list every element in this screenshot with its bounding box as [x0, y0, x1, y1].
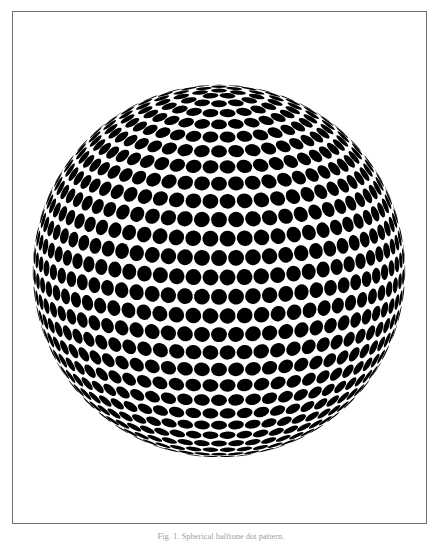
halftone-sphere-icon [1, 1, 442, 544]
figure-frame [12, 11, 427, 524]
page-canvas: Fig. 1. Spherical halftone dot pattern. [0, 0, 442, 544]
halftone-sphere-figure [13, 12, 426, 523]
figure-caption: Fig. 1. Spherical halftone dot pattern. [0, 531, 442, 544]
